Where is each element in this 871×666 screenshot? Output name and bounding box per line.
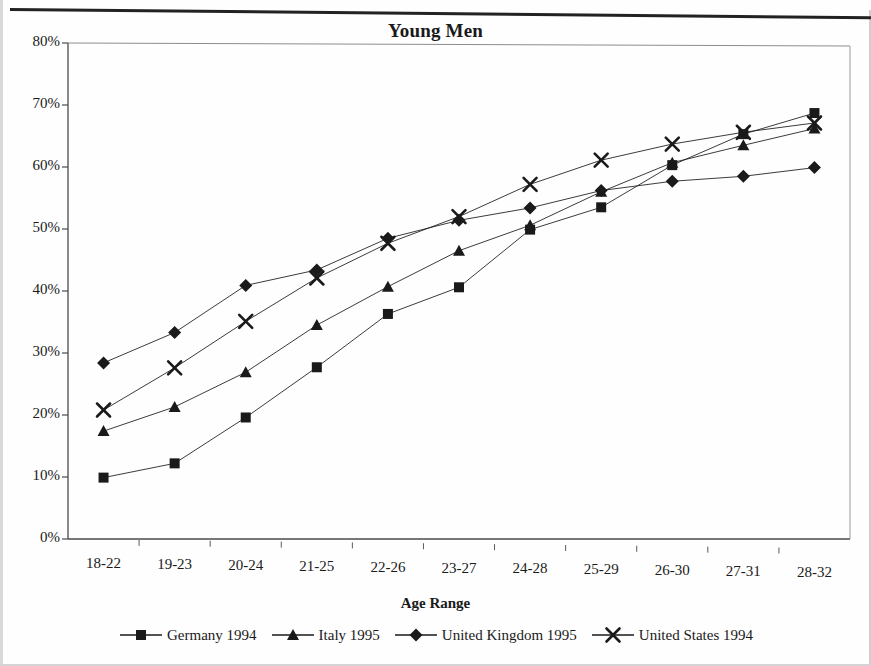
scanned-chart-page: Young Men 0%10%20%30%40%50%60%70%80% 18-… bbox=[0, 0, 871, 666]
y-axis-tick-label: 70% bbox=[14, 95, 60, 112]
legend-label: United Kingdom 1995 bbox=[442, 627, 577, 644]
x-axis-tick-label: 21-25 bbox=[281, 558, 353, 575]
legend-entry: Italy 1995 bbox=[270, 626, 380, 644]
legend-label: Italy 1995 bbox=[319, 627, 380, 644]
legend-entry: Germany 1994 bbox=[118, 626, 257, 644]
x-axis-tick-label: 19-23 bbox=[139, 556, 211, 573]
x-axis-title: Age Range bbox=[0, 595, 871, 612]
y-axis-tick-label: 30% bbox=[14, 343, 60, 360]
legend-entry: United States 1994 bbox=[590, 626, 753, 644]
legend-label: United States 1994 bbox=[639, 627, 753, 644]
triangle-marker-icon bbox=[270, 626, 316, 644]
cross-marker-icon bbox=[590, 626, 636, 644]
y-axis-tick-label: 10% bbox=[14, 467, 60, 484]
x-axis-tick-label: 20-24 bbox=[210, 557, 282, 574]
x-axis-tick-label: 28-32 bbox=[778, 564, 850, 581]
legend-label: Germany 1994 bbox=[167, 627, 257, 644]
y-axis-tick-label: 80% bbox=[14, 33, 60, 50]
legend-entry: United Kingdom 1995 bbox=[393, 626, 577, 644]
x-axis-tick-label: 18-22 bbox=[68, 555, 140, 572]
chart-legend: Germany 1994Italy 1995United Kingdom 199… bbox=[0, 626, 871, 644]
y-axis-tick-label: 20% bbox=[14, 405, 60, 422]
x-axis-tick-label: 24-28 bbox=[494, 560, 566, 577]
diamond-marker-icon bbox=[393, 626, 439, 644]
x-axis-tick-label: 22-26 bbox=[352, 559, 424, 576]
x-axis-tick-label: 27-31 bbox=[707, 563, 779, 580]
y-axis-tick-label: 50% bbox=[14, 219, 60, 236]
x-axis-tick-label: 26-30 bbox=[636, 562, 708, 579]
y-axis-tick-label: 0% bbox=[14, 529, 60, 546]
square-marker-icon bbox=[118, 626, 164, 644]
x-axis-tick-label: 23-27 bbox=[423, 560, 495, 577]
y-axis-tick-label: 40% bbox=[14, 281, 60, 298]
y-axis-tick-label: 60% bbox=[14, 157, 60, 174]
x-axis-tick-label: 25-29 bbox=[565, 561, 637, 578]
